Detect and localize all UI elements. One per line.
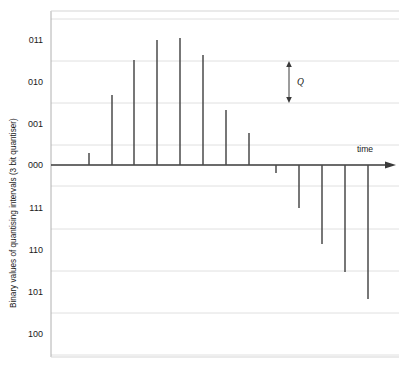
y-axis-label: Binary values of quantising intervals (3…: [9, 118, 18, 308]
quantiser-stem-chart: 011010001000111110101100 Q time Binary v…: [0, 0, 401, 375]
y-tick-label-111: 111: [29, 203, 43, 213]
y-tick-label-001: 001: [28, 119, 43, 129]
chart-canvas: 011010001000111110101100 Q time Binary v…: [0, 0, 401, 375]
y-tick-label-011: 011: [29, 35, 43, 45]
y-tick-label-100: 100: [28, 329, 43, 339]
y-tick-label-010: 010: [28, 77, 43, 87]
y-tick-label-110: 110: [29, 245, 43, 255]
x-axis-label: time: [357, 144, 373, 154]
y-tick-label-101: 101: [28, 287, 43, 297]
chart-background: [0, 0, 401, 375]
q-label: Q: [297, 77, 304, 87]
y-tick-label-000: 000: [28, 160, 43, 170]
